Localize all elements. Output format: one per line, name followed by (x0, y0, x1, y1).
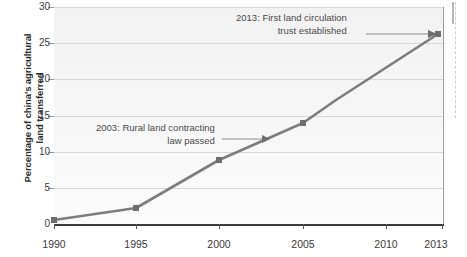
chart-figure: Percentage of china's agricultural land … (0, 0, 467, 257)
annotation-2003-line-2: law passed (167, 135, 215, 146)
series-overlay (0, 0, 467, 257)
data-marker-1995 (133, 205, 139, 211)
annotation-2003-line-1: 2003: Rural land contracting (96, 122, 215, 133)
page-edge-dashed-rule (455, 2, 456, 118)
annotation-2013: 2013: First land circulation trust estab… (236, 12, 347, 37)
data-marker-2000 (216, 157, 222, 163)
annotation-2013-line-2: trust established (278, 25, 347, 36)
annotation-arrow-2003-head (262, 135, 270, 143)
data-marker-1990 (51, 217, 57, 223)
page-edge-mark (452, 2, 454, 24)
data-marker-2005 (300, 120, 306, 126)
annotation-2003: 2003: Rural land contracting law passed (96, 122, 215, 147)
annotation-2013-line-1: 2013: First land circulation (236, 12, 347, 23)
